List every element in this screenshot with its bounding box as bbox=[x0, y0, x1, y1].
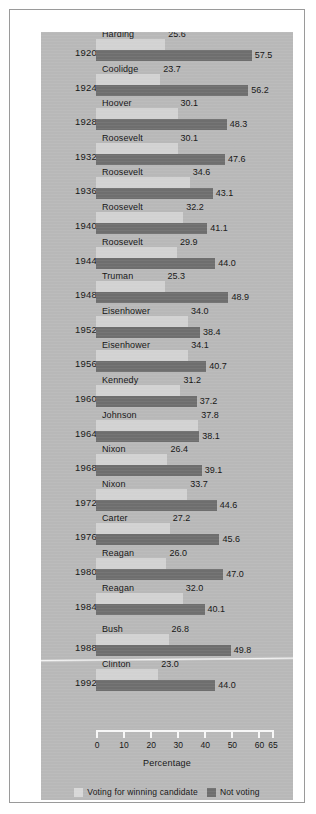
bar-value-voting-winning: 30.1 bbox=[181, 98, 199, 108]
y-axis-tick-label: 1928 bbox=[55, 116, 97, 127]
bar-label-candidate: Roosevelt bbox=[102, 237, 143, 247]
bar-not-voting bbox=[96, 85, 248, 96]
bar-voting-winning bbox=[96, 523, 170, 534]
bar-group: 1920Harding25.657.5 bbox=[41, 37, 293, 65]
bar-not-voting bbox=[96, 465, 202, 476]
bar-value-not-voting: 39.1 bbox=[205, 465, 223, 475]
bar-voting-winning bbox=[96, 212, 183, 223]
bar-not-voting bbox=[96, 500, 217, 511]
x-axis-tick bbox=[123, 730, 125, 738]
y-axis-tick-label: 1988 bbox=[55, 642, 97, 653]
bar-group: 1988Bush26.849.8 bbox=[41, 632, 293, 660]
bar-label-candidate: Nixon bbox=[102, 444, 126, 454]
bar-value-not-voting: 48.3 bbox=[230, 119, 248, 129]
bar-group: 1992Clinton23.044.0 bbox=[41, 667, 293, 695]
x-axis-title: Percentage bbox=[41, 758, 293, 768]
bar-voting-winning bbox=[96, 385, 180, 396]
bar-value-voting-winning: 31.2 bbox=[183, 375, 201, 385]
x-axis-tick-label: 50 bbox=[220, 740, 244, 750]
figure-frame: Election Year 1920Harding25.657.51924Coo… bbox=[9, 9, 305, 803]
bar-voting-winning bbox=[96, 350, 188, 361]
legend-label-notvoting: Not voting bbox=[220, 787, 260, 797]
bar-voting-winning bbox=[96, 593, 183, 604]
legend-label-winning: Voting for winning candidate bbox=[87, 787, 198, 797]
y-axis-tick-label: 1944 bbox=[55, 255, 97, 266]
bar-group: 1972Nixon33.744.6 bbox=[41, 487, 293, 515]
y-axis-tick-label: 1968 bbox=[55, 462, 97, 473]
y-axis-tick-label: 1992 bbox=[55, 677, 97, 688]
y-axis-tick-label: 1940 bbox=[55, 220, 97, 231]
bar-value-not-voting: 47.0 bbox=[226, 569, 244, 579]
legend-item-notvoting: Not voting bbox=[207, 787, 260, 797]
y-axis-tick-label: 1924 bbox=[55, 82, 97, 93]
bar-voting-winning bbox=[96, 316, 188, 327]
bar-voting-winning bbox=[96, 420, 198, 431]
bar-label-candidate: Nixon bbox=[102, 479, 126, 489]
y-axis-tick-label: 1956 bbox=[55, 358, 97, 369]
bar-not-voting bbox=[96, 645, 231, 656]
y-axis-tick-label: 1972 bbox=[55, 497, 97, 508]
bar-label-candidate: Reagan bbox=[102, 548, 134, 558]
bar-not-voting bbox=[96, 396, 197, 407]
bar-group: 1932Roosevelt30.147.6 bbox=[41, 141, 293, 169]
bar-value-voting-winning: 33.7 bbox=[190, 479, 208, 489]
bar-not-voting bbox=[96, 327, 200, 338]
bar-value-voting-winning: 25.3 bbox=[168, 271, 186, 281]
bar-label-candidate: Eisenhower bbox=[102, 340, 150, 350]
bar-value-not-voting: 44.0 bbox=[218, 680, 236, 690]
bar-value-not-voting: 44.0 bbox=[218, 258, 236, 268]
bar-value-not-voting: 43.1 bbox=[216, 188, 234, 198]
bar-value-not-voting: 40.1 bbox=[208, 604, 226, 614]
bar-label-candidate: Johnson bbox=[102, 410, 137, 420]
bar-voting-winning bbox=[96, 247, 177, 258]
bar-voting-winning bbox=[96, 558, 166, 569]
bar-value-voting-winning: 34.0 bbox=[191, 306, 209, 316]
legend-swatch-winning bbox=[74, 788, 83, 797]
legend-swatch-notvoting bbox=[207, 788, 216, 797]
bar-not-voting bbox=[96, 50, 252, 61]
bar-group: 1984Reagan32.040.1 bbox=[41, 591, 293, 619]
bar-label-candidate: Truman bbox=[102, 271, 133, 281]
bar-value-voting-winning: 26.4 bbox=[170, 444, 188, 454]
bar-not-voting bbox=[96, 292, 228, 303]
bar-value-not-voting: 38.1 bbox=[202, 431, 220, 441]
bar-voting-winning bbox=[96, 454, 167, 465]
x-axis-tick bbox=[150, 730, 152, 738]
bar-group: 1980Reagan26.047.0 bbox=[41, 556, 293, 584]
x-axis-tick bbox=[231, 730, 233, 738]
x-axis-tick bbox=[204, 730, 206, 738]
plot-panel: 1920Harding25.657.51924Coolidge23.756.21… bbox=[41, 32, 293, 800]
bar-value-not-voting: 56.2 bbox=[251, 85, 269, 95]
bar-voting-winning bbox=[96, 489, 187, 500]
bar-group: 1948Truman25.348.9 bbox=[41, 279, 293, 307]
bar-value-not-voting: 48.9 bbox=[231, 292, 249, 302]
bar-not-voting bbox=[96, 604, 205, 615]
bar-group: 1936Roosevelt34.643.1 bbox=[41, 175, 293, 203]
bar-group: 1924Coolidge23.756.2 bbox=[41, 72, 293, 100]
bar-voting-winning bbox=[96, 634, 169, 645]
legend-item-winning: Voting for winning candidate bbox=[74, 787, 198, 797]
bar-label-candidate: Roosevelt bbox=[102, 202, 143, 212]
y-axis-tick-label: 1960 bbox=[55, 393, 97, 404]
bar-group: 1960Kennedy31.237.2 bbox=[41, 383, 293, 411]
bar-label-candidate: Roosevelt bbox=[102, 133, 143, 143]
y-axis-tick-label: 1984 bbox=[55, 601, 97, 612]
bar-voting-winning bbox=[96, 143, 178, 154]
y-axis-tick-label: 1936 bbox=[55, 185, 97, 196]
x-axis-tick bbox=[96, 730, 98, 738]
x-axis-tick-label: 0 bbox=[85, 740, 109, 750]
bar-label-candidate: Roosevelt bbox=[102, 167, 143, 177]
bar-value-not-voting: 45.6 bbox=[222, 534, 240, 544]
bar-value-voting-winning: 32.0 bbox=[186, 583, 204, 593]
bars-container: 1920Harding25.657.51924Coolidge23.756.21… bbox=[41, 32, 293, 800]
bar-value-voting-winning: 23.7 bbox=[163, 64, 181, 74]
y-axis-tick-label: 1920 bbox=[55, 47, 97, 58]
bar-label-candidate: Harding bbox=[102, 32, 134, 39]
bar-voting-winning bbox=[96, 669, 158, 680]
bar-voting-winning bbox=[96, 39, 165, 50]
bar-not-voting bbox=[96, 258, 215, 269]
bar-value-not-voting: 38.4 bbox=[203, 327, 221, 337]
x-axis-tick bbox=[272, 730, 274, 738]
bar-group: 1944Roosevelt29.944.0 bbox=[41, 245, 293, 273]
bar-value-voting-winning: 29.9 bbox=[180, 237, 198, 247]
